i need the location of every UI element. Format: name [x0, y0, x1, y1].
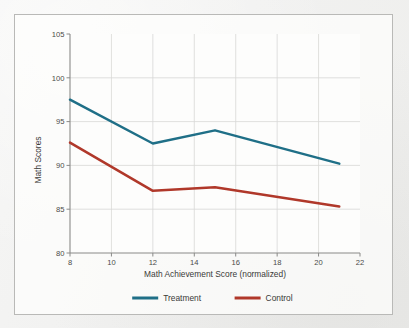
x-axis-tick-labels: 810121416182022 [68, 258, 364, 267]
x-tick-label: 12 [149, 258, 157, 267]
x-tick-label: 16 [231, 258, 239, 267]
chart-legend: TreatmentControl [132, 293, 293, 303]
legend-label-control: Control [266, 293, 293, 303]
line-chart: 810121416182022 80859095100105 Math Achi… [0, 0, 409, 328]
x-tick-label: 14 [190, 258, 198, 267]
y-tick-label: 90 [56, 161, 64, 170]
y-tick-label: 105 [52, 30, 65, 39]
y-axis-title: Math Scores [33, 136, 43, 183]
x-tick-label: 22 [356, 258, 364, 267]
plot-background [70, 34, 360, 253]
y-tick-label: 85 [56, 205, 64, 214]
legend-label-treatment: Treatment [163, 293, 202, 303]
x-tick-label: 10 [107, 258, 115, 267]
x-tick-label: 8 [68, 258, 72, 267]
x-tick-label: 20 [314, 258, 322, 267]
y-tick-label: 80 [56, 249, 64, 258]
x-tick-label: 18 [273, 258, 281, 267]
plot-panel [70, 34, 360, 253]
y-axis-tick-labels: 80859095100105 [52, 30, 65, 258]
y-tick-label: 95 [56, 117, 64, 126]
x-axis-title: Math Achievement Score (normalized) [144, 269, 286, 279]
y-tick-label: 100 [52, 74, 65, 83]
